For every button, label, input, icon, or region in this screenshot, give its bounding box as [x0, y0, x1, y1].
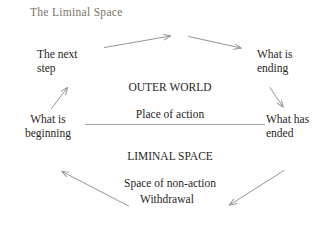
outer-world-heading: OUTER WORLD — [103, 81, 237, 95]
label-what-has-ended: What has ended — [266, 113, 309, 140]
arrow-beginning-to-next-step — [52, 88, 68, 109]
block-liminal-space: LIMINAL SPACE Space of non-action — [96, 136, 244, 204]
arrow-ending-to-ended — [270, 88, 283, 108]
arrow-next-step-to-outer-world — [105, 36, 171, 48]
liminal-space-heading: LIMINAL SPACE — [96, 150, 244, 164]
label-what-is-beginning: What is beginning — [9, 113, 87, 140]
liminal-space-diagram: The Liminal Space The next step What is … — [0, 0, 336, 225]
block-outer-world: OUTER WORLD Place of action — [103, 67, 237, 135]
arrow-outer-world-to-ending — [189, 37, 242, 49]
label-what-is-ending: What is ending — [257, 48, 292, 75]
liminal-space-subtitle: Space of non-action — [96, 177, 244, 191]
outer-world-subtitle: Place of action — [103, 108, 237, 122]
label-next-step: The next step — [37, 48, 78, 75]
